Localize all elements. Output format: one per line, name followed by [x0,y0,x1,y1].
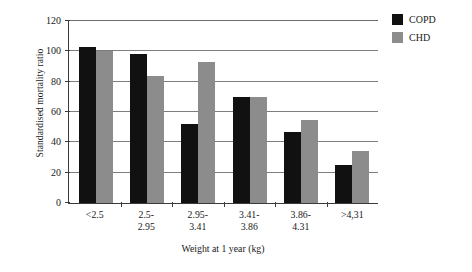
x-tick-label-line: 2.95- [172,209,224,221]
x-tick-label-line: 2.5- [121,209,173,221]
x-tick-mark [275,202,276,207]
legend-swatch-copd [392,14,403,25]
y-tick-label: 20 [51,168,61,178]
x-tick-label: >4,31 [327,209,379,232]
x-axis-tick-labels: <2.52.5-2.952.95-3.413.41-3.863.86-4.31>… [69,209,378,232]
legend-item-chd[interactable]: CHD [392,32,436,43]
x-tick-mark [327,202,328,207]
y-tick-label: 100 [46,46,61,56]
x-tick-label: 3.86-4.31 [275,209,327,232]
y-tick-label: 60 [51,107,61,117]
legend: COPDCHD [392,14,436,50]
bar-group [327,21,378,203]
bar-chart: Standardised mortality ratio 02040608010… [0,0,472,272]
bar-chd [147,76,164,203]
x-tick-label-line: <2.5 [69,209,121,221]
bar-group [224,21,275,203]
bar-copd [130,54,147,203]
x-tick-label-line: 4.31 [275,221,327,233]
bar-chd [352,151,369,203]
x-tick-label-line: >4,31 [327,209,379,221]
x-tick-label: 2.5-2.95 [121,209,173,232]
bar-copd [79,47,96,203]
x-tick-label-line: 3.41- [224,209,276,221]
x-tick-label: 2.95-3.41 [172,209,224,232]
y-axis-title: Standardised mortality ratio [35,3,45,203]
x-tick-label-line: 3.86- [275,209,327,221]
y-tick-label: 80 [51,77,61,87]
x-tick-mark [224,202,225,207]
x-tick-label-line: 2.95 [121,221,173,233]
bar-chd [301,120,318,203]
x-tick-label-line: 3.41 [172,221,224,233]
bar-group [70,21,121,203]
legend-label: CHD [409,33,430,43]
y-tick-label: 120 [46,16,61,26]
bar-group [275,21,326,203]
bar-copd [233,97,250,203]
y-tick-label: 40 [51,137,61,147]
bar-chd [250,97,267,203]
bar-group [121,21,172,203]
bar-copd [181,124,198,203]
bar-copd [284,132,301,203]
plot-area: 020406080100120 [68,21,378,204]
x-tick-label-line: 3.86 [224,221,276,233]
legend-swatch-chd [392,32,403,43]
x-tick-mark [172,202,173,207]
bar-copd [335,165,352,203]
legend-label: COPD [409,15,436,25]
y-tick-label: 0 [56,198,61,208]
x-tick-mark [121,202,122,207]
bars-layer [70,21,378,203]
x-tick-label: 3.41-3.86 [224,209,276,232]
bar-group [173,21,224,203]
bar-chd [96,51,113,203]
x-tick-label: <2.5 [69,209,121,232]
bar-chd [198,62,215,203]
x-axis-title: Weight at 1 year (kg) [68,243,378,254]
legend-item-copd[interactable]: COPD [392,14,436,25]
